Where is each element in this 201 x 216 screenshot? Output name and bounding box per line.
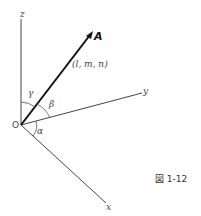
y-axis-label: y bbox=[143, 87, 148, 96]
alpha-label: α bbox=[37, 127, 43, 136]
direction-cosines-label: (l, m, n) bbox=[72, 60, 108, 69]
gamma-label: γ bbox=[28, 89, 33, 98]
vector-a bbox=[21, 35, 90, 125]
y-axis bbox=[21, 93, 142, 125]
x-axis-label: x bbox=[106, 203, 111, 212]
x-axis bbox=[21, 125, 106, 203]
beta-label: β bbox=[49, 100, 54, 109]
origin-label: O bbox=[12, 121, 19, 130]
z-axis-label: z bbox=[20, 10, 25, 19]
figure-caption: 図 1-12 bbox=[155, 175, 187, 184]
gamma-arc bbox=[21, 102, 35, 107]
vector-label: A bbox=[94, 31, 103, 42]
